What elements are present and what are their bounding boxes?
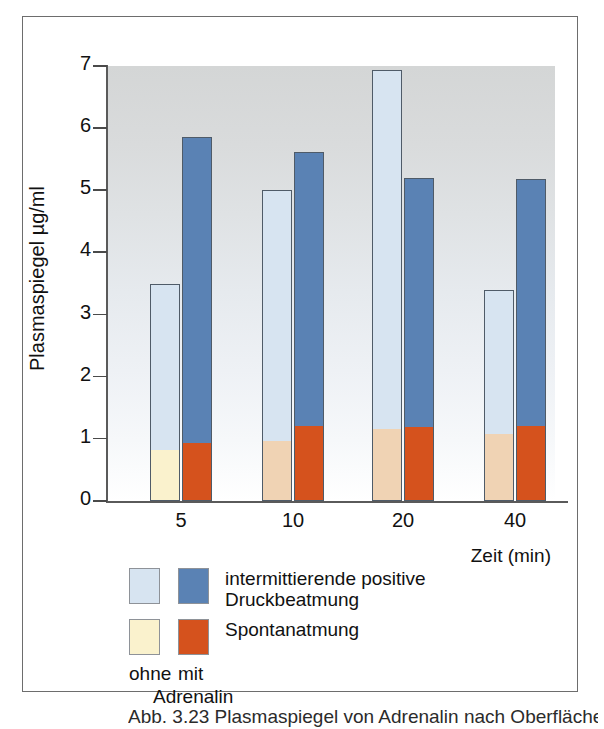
figure-frame: 01234567 Plasmaspiegel µg/ml 5102040 Zei… [22,16,578,692]
y-tick-label-6: 6 [80,115,91,135]
bar-segment-spontanatmung-20-ohne [373,429,401,500]
y-tick-5 [93,189,107,191]
legend-row-druckbeatmung: intermittierende positive Druckbeatmung [129,568,549,611]
bar-segment-spontanatmung-5-mit [183,443,211,500]
bar-40-ohne[interactable] [484,290,514,501]
legend-row-spontanatmung: Spontanatmung [129,619,549,655]
bar-segment-spontanatmung-5-ohne [151,450,179,500]
bar-20-ohne[interactable] [372,70,402,501]
y-tick-4 [93,251,107,253]
bar-10-ohne[interactable] [262,190,292,501]
bar-5-ohne[interactable] [150,284,180,502]
y-axis-title: Plasmaspiegel µg/ml [26,99,49,459]
y-tick-6 [93,127,107,129]
x-axis-line [106,501,568,503]
legend: intermittierende positive Druckbeatmung … [129,568,549,708]
bar-segment-druckbeatmung-20-mit [405,179,433,427]
y-tick-label-3: 3 [80,302,91,322]
y-tick-label-5: 5 [80,177,91,197]
bar-segment-druckbeatmung-5-ohne [151,285,179,451]
bar-segment-spontanatmung-20-mit [405,427,433,500]
bar-5-mit[interactable] [182,137,212,501]
bar-10-mit[interactable] [294,152,324,501]
legend-swatch-ipdb-ohne [129,568,160,604]
bar-segment-spontanatmung-40-ohne [485,434,513,500]
bar-segment-druckbeatmung-10-mit [295,153,323,426]
legend-sublabel-ohne: ohne [129,663,178,685]
legend-sublabel-mit: mit [178,663,238,685]
bar-group-40 [484,66,546,501]
bar-group-5 [150,66,212,501]
y-tick-label-7: 7 [80,53,91,73]
bar-40-mit[interactable] [516,179,546,501]
y-tick-0 [93,500,107,502]
y-tick-label-4: 4 [80,239,91,259]
legend-swatch-spontan-ohne [129,619,160,655]
bar-segment-druckbeatmung-40-ohne [485,291,513,433]
legend-label-spontanatmung: Spontanatmung [225,619,359,640]
bar-segment-spontanatmung-10-ohne [263,441,291,500]
x-tick-label-10: 10 [248,509,338,532]
legend-swatch-spontan-mit [178,619,209,655]
y-tick-label-1: 1 [80,426,91,446]
legend-swatch-ipdb-mit [178,568,209,604]
x-axis-title: Zeit (min) [471,545,551,567]
bar-20-mit[interactable] [404,178,434,501]
figure-caption-partial: Abb. 3.23 Plasmaspiegel von Adrenalin na… [128,706,598,729]
y-tick-3 [93,314,107,316]
bar-segment-druckbeatmung-40-mit [517,180,545,426]
legend-sublabel-adrenalin: Adrenalin [153,686,549,708]
bar-group-20 [372,66,434,501]
legend-sublabels: ohne mit [129,663,549,685]
y-tick-label-0: 0 [80,488,91,508]
x-tick-label-5: 5 [136,509,226,532]
legend-label-druckbeatmung: intermittierende positive Druckbeatmung [225,568,525,611]
bar-segment-spontanatmung-40-mit [517,426,545,500]
x-tick-label-40: 40 [470,509,560,532]
bar-segment-spontanatmung-10-mit [295,426,323,500]
bar-segment-druckbeatmung-20-ohne [373,71,401,429]
bar-group-10 [262,66,324,501]
plot-area [107,66,555,501]
y-tick-2 [93,376,107,378]
bar-segment-druckbeatmung-5-mit [183,138,211,444]
bar-segment-druckbeatmung-10-ohne [263,191,291,441]
x-tick-label-20: 20 [358,509,448,532]
y-tick-7 [93,65,107,67]
y-tick-1 [93,438,107,440]
y-tick-label-2: 2 [80,364,91,384]
y-axis-line [106,65,108,502]
